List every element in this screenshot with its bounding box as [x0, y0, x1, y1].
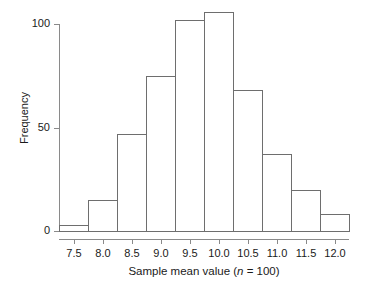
y-tick-50	[54, 128, 59, 129]
y-tick-label-0: 0	[0, 225, 50, 236]
y-tick-label-50: 50	[0, 122, 50, 133]
y-tick-label-100: 100	[0, 18, 50, 29]
x-tick-12.0	[335, 239, 336, 244]
x-tick-8.0	[103, 239, 104, 244]
x-tick-10.5	[248, 239, 249, 244]
x-axis-title: Sample mean value (n = 100)	[59, 265, 349, 277]
histogram-bar	[233, 90, 263, 232]
histogram-figure: Frequency 050100 7.58.08.59.09.510.010.5…	[0, 0, 380, 291]
histogram-bar	[146, 76, 176, 232]
x-tick-9.5	[190, 239, 191, 244]
x-tick-7.5	[74, 239, 75, 244]
y-tick-100	[54, 24, 59, 25]
histogram-bar	[262, 154, 292, 232]
x-axis-title-suffix: = 100)	[243, 265, 279, 277]
x-tick-11.0	[277, 239, 278, 244]
x-tick-8.5	[132, 239, 133, 244]
histogram-bar	[204, 12, 234, 232]
histogram-bar	[117, 134, 147, 232]
histogram-bar	[175, 20, 205, 232]
histogram-bar	[291, 190, 321, 232]
x-tick-10.0	[219, 239, 220, 244]
y-axis-title: Frequency	[18, 58, 30, 178]
x-tick-label-12.0: 12.0	[315, 247, 355, 259]
y-axis-line	[59, 24, 60, 232]
histogram-bar	[88, 200, 118, 232]
histogram-bar	[320, 214, 350, 232]
x-tick-9.0	[161, 239, 162, 244]
plot-area: Frequency 050100 7.58.08.59.09.510.010.5…	[0, 0, 380, 291]
histogram-bar	[59, 225, 89, 232]
x-tick-11.5	[306, 239, 307, 244]
x-axis-title-prefix: Sample mean value (	[128, 265, 237, 277]
